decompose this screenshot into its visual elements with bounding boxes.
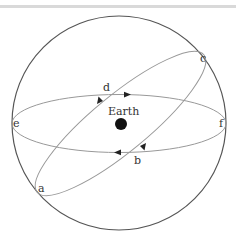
earth-label: Earth xyxy=(108,105,139,118)
arrow-inclined-lower xyxy=(140,143,146,151)
arrow-equatorial-bottom xyxy=(114,150,121,156)
celestial-sphere-diagram: Earth a b c d e f xyxy=(0,0,240,241)
point-label-d: d xyxy=(103,81,110,94)
point-label-e: e xyxy=(13,117,20,130)
point-label-a: a xyxy=(38,182,45,195)
earth-dot xyxy=(115,118,127,130)
point-label-c: c xyxy=(200,52,206,65)
arrow-equatorial-top xyxy=(124,92,131,98)
point-label-f: f xyxy=(219,117,224,130)
point-label-b: b xyxy=(134,154,141,167)
